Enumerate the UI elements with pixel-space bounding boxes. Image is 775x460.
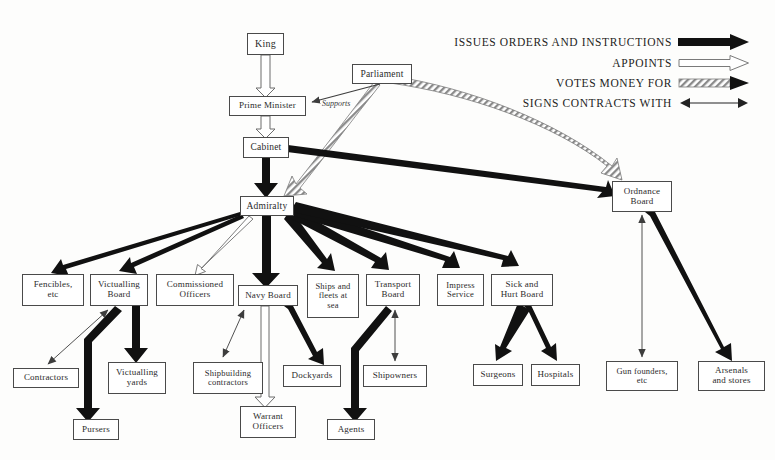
node-sick-and-hurt-board[interactable]: Sick and Hurt Board (491, 274, 553, 306)
thick-solid-arrow-icon (678, 33, 750, 51)
node-ships-and-fleets[interactable]: Ships and fleets at sea (307, 274, 359, 318)
node-label: Fencibles, etc (34, 280, 73, 299)
node-label: Arsenals and stores (712, 366, 750, 385)
node-label: Shipbuilding contractors (205, 369, 251, 387)
node-label: Victualling yards (116, 368, 158, 387)
node-label: Admiralty (247, 201, 288, 211)
legend-row-signs-contracts: SIGNS CONTRACTS WITH (440, 94, 750, 112)
node-prime-minister[interactable]: Prime Minister (229, 96, 306, 116)
node-dockyards[interactable]: Dockyards (283, 365, 341, 387)
node-navy-board[interactable]: Navy Board (238, 285, 298, 306)
edge-cabinet-to-admiralty (254, 158, 278, 198)
node-label: Ships and fleets at sea (315, 282, 350, 310)
node-gun-founders-etc[interactable]: Gun founders, etc (606, 361, 678, 391)
edge-victualling-board-to-victualling-yards (124, 306, 148, 363)
legend-row-appoints: APPOINTS (440, 54, 750, 72)
legend-label-votes-money: VOTES MONEY FOR (556, 77, 678, 89)
node-pursers[interactable]: Pursers (73, 419, 119, 440)
node-warrant-officers[interactable]: Warrant Officers (240, 406, 296, 438)
node-hospitals[interactable]: Hospitals (531, 364, 580, 386)
edge-admiralty-to-navy-board (252, 216, 280, 288)
node-admiralty[interactable]: Admiralty (240, 196, 294, 216)
edge-king-to-prime-minister (256, 55, 275, 98)
edge-transport-board-to-agents (343, 306, 392, 422)
edge-cabinet-to-ordnance-board (287, 145, 615, 198)
hatched-arrow-icon (678, 74, 750, 92)
legend-label-appoints: APPOINTS (612, 57, 678, 69)
node-king[interactable]: King (247, 33, 284, 55)
node-label: Sick and Hurt Board (501, 280, 544, 299)
edge-sick-and-hurt-board-to-hospitals (524, 303, 557, 361)
edge-sick-and-hurt-board-to-surgeons (495, 303, 530, 361)
node-shipbuilding-contractors[interactable]: Shipbuilding contractors (193, 362, 263, 394)
double-headed-arrow-icon (678, 94, 750, 112)
node-label: Pursers (82, 425, 110, 435)
node-shipowners[interactable]: Shipowners (363, 365, 427, 387)
node-label: King (255, 39, 276, 50)
node-label: Cabinet (251, 142, 282, 152)
node-label: Dockyards (292, 371, 333, 381)
node-ordnance-board[interactable]: Ordnance Board (612, 181, 672, 212)
edge-prime-minister-to-cabinet (256, 116, 275, 139)
edge-navy-board-to-shipbuilding-contractors (223, 310, 244, 357)
node-impress-service[interactable]: Impress Service (437, 274, 484, 306)
node-contractors[interactable]: Contractors (13, 368, 79, 388)
node-parliament[interactable]: Parliament (352, 64, 412, 84)
node-victualling-yards[interactable]: Victualling yards (108, 362, 166, 394)
node-label: Warrant Officers (253, 412, 284, 431)
node-label: Transport Board (375, 280, 411, 299)
legend-label-signs-contracts: SIGNS CONTRACTS WITH (523, 97, 678, 109)
diagram-canvas: ISSUES ORDERS AND INSTRUCTIONS APPOINTS … (0, 0, 775, 460)
node-label: Victualling Board (98, 280, 140, 299)
node-commissioned-officers[interactable]: Commissioned Officers (156, 274, 234, 306)
node-fencibles-etc[interactable]: Fencibles, etc (22, 274, 84, 306)
node-label: Hospitals (538, 370, 574, 380)
node-arsenals-and-stores[interactable]: Arsenals and stores (698, 361, 765, 391)
node-label: Commissioned Officers (167, 280, 223, 299)
hollow-outline-arrow-icon (678, 54, 750, 72)
legend-row-votes-money: VOTES MONEY FOR (440, 74, 750, 92)
node-label: Surgeons (481, 370, 516, 380)
node-cabinet[interactable]: Cabinet (243, 137, 289, 158)
node-surgeons[interactable]: Surgeons (473, 364, 523, 386)
node-label: Gun founders, etc (616, 367, 667, 385)
node-label: Parliament (360, 69, 403, 79)
node-agents[interactable]: Agents (327, 419, 375, 440)
node-label: Impress Service (446, 281, 474, 299)
node-label: Ordnance Board (624, 187, 661, 206)
node-transport-board[interactable]: Transport Board (366, 274, 420, 306)
node-label: Shipowners (373, 371, 418, 381)
edge-label-supports: Supports (322, 99, 350, 108)
node-label: Contractors (24, 373, 68, 383)
node-label: Navy Board (245, 291, 291, 301)
legend-label-issues-orders: ISSUES ORDERS AND INSTRUCTIONS (454, 36, 678, 48)
node-victualling-board[interactable]: Victualling Board (90, 274, 148, 306)
edge-ordnance-board-to-arsenals (645, 208, 732, 361)
edge-admiralty-to-fencibles (51, 209, 243, 276)
legend-row-issues-orders: ISSUES ORDERS AND INSTRUCTIONS (440, 33, 750, 51)
edge-victualling-board-to-contractors (48, 310, 108, 364)
node-label: Agents (338, 425, 365, 435)
node-label: Prime Minister (239, 101, 296, 111)
